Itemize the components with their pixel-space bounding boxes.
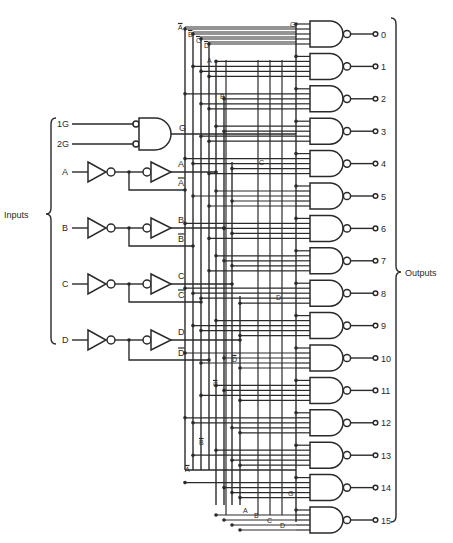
nand-body — [310, 248, 343, 274]
inversion-bubble — [133, 141, 139, 147]
output-12-label: 12 — [381, 418, 391, 428]
junction-dot — [230, 426, 234, 430]
bus-g-top-label: G — [290, 21, 295, 28]
junction-dot — [191, 421, 195, 425]
junction-dot — [222, 486, 226, 490]
inversion-bubble — [343, 160, 350, 167]
junction-dot — [294, 119, 298, 123]
junction-dot — [294, 55, 298, 59]
outputs-label: Outputs — [405, 268, 437, 278]
bus-c-bar-label: C — [196, 37, 201, 44]
output-4-label: 4 — [381, 159, 386, 169]
junction-dot — [207, 172, 211, 176]
junction-dot — [294, 217, 298, 221]
junction-dot — [294, 87, 298, 91]
junction-dot — [183, 416, 187, 420]
enable-2g-label: 2G — [57, 139, 69, 149]
output-terminal — [373, 97, 378, 102]
output-terminal — [373, 453, 378, 458]
nand-body — [310, 280, 343, 306]
inversion-bubble — [343, 225, 350, 232]
junction-dot — [207, 75, 211, 79]
input-c-comp-label: C — [178, 290, 185, 300]
junction-dot — [199, 102, 203, 106]
inversion-bubble — [343, 257, 350, 264]
output-terminal — [373, 356, 378, 361]
input-b-true-label: B — [178, 215, 184, 225]
bus-a-bar-mid-label: A — [185, 466, 190, 473]
inverter-gate — [151, 218, 171, 238]
inversion-bubble — [107, 224, 115, 232]
bus-d-bottom-label: D — [280, 522, 285, 529]
bus-d-bar-mid-label: D — [232, 356, 237, 363]
nand-body — [310, 410, 343, 436]
junction-dot — [191, 65, 195, 69]
junction-dot — [230, 523, 234, 527]
junction-dot — [183, 92, 187, 96]
labels: Inputs1G2GGAAABBBCCCDDD01234567891011121… — [4, 18, 437, 529]
junction-dot — [294, 443, 298, 447]
enable-1g-label: 1G — [57, 119, 69, 129]
inverter-gate — [88, 218, 106, 238]
output-9-label: 9 — [381, 321, 386, 331]
input-c-label: C — [62, 279, 69, 289]
junction-dot — [238, 334, 242, 338]
bus-c-bar-mid-label: C — [213, 381, 218, 388]
inverter-gate — [88, 162, 106, 182]
output-8-label: 8 — [381, 289, 386, 299]
junction-dot — [183, 27, 187, 31]
inversion-bubble — [343, 322, 350, 329]
junction-dot — [191, 324, 195, 328]
output-14-label: 14 — [381, 483, 391, 493]
input-a-comp-label: A — [178, 178, 184, 188]
junction-dot — [294, 249, 298, 253]
output-terminal — [373, 259, 378, 264]
nand-gates — [88, 21, 378, 533]
junction-dot — [222, 259, 226, 263]
junction-dot — [294, 508, 298, 512]
input-b-comp-label: B — [178, 234, 184, 244]
enable-g-label: G — [179, 123, 186, 133]
nand-body — [310, 345, 343, 371]
junction-dot — [222, 389, 226, 393]
nand-body — [310, 215, 343, 241]
output-3-label: 3 — [381, 127, 386, 137]
nand-body — [310, 507, 343, 533]
junction-dot — [207, 269, 211, 273]
junction-dot — [294, 184, 298, 188]
inversion-bubble — [343, 516, 350, 523]
output-terminal — [373, 485, 378, 490]
inversion-bubble — [143, 336, 151, 344]
output-13-label: 13 — [381, 451, 391, 461]
junction-dot — [214, 319, 218, 323]
inversion-bubble — [143, 224, 151, 232]
bus-c-label: C — [259, 159, 264, 166]
input-b-label: B — [62, 223, 68, 233]
inversion-bubble — [343, 63, 350, 70]
junction-dot — [230, 264, 234, 268]
input-c-true-label: C — [178, 271, 185, 281]
junction-dot — [238, 366, 242, 370]
nand-body — [310, 475, 343, 501]
junction-dot — [214, 513, 218, 517]
decoder-schematic: Inputs1G2GGAAABBBCCCDDD01234567891011121… — [0, 0, 453, 543]
output-terminal — [373, 388, 378, 393]
junction-dot — [238, 496, 242, 500]
output-1-label: 1 — [381, 62, 386, 72]
inverter-gate — [88, 274, 106, 294]
wire — [129, 340, 209, 360]
bus-d-bar-label: D — [204, 42, 209, 49]
nand-body — [310, 53, 343, 79]
junction-dot — [214, 124, 218, 128]
junction-dot — [214, 254, 218, 258]
junction-dot — [294, 346, 298, 350]
inversion-bubble — [133, 121, 139, 127]
junction-dot — [191, 162, 195, 166]
output-7-label: 7 — [381, 256, 386, 266]
junction-dot — [238, 528, 242, 532]
junction-dot — [199, 70, 203, 74]
output-terminal — [373, 226, 378, 231]
nand-body — [310, 183, 343, 209]
enable-and-gate — [139, 118, 171, 150]
junction-dot — [238, 463, 242, 467]
